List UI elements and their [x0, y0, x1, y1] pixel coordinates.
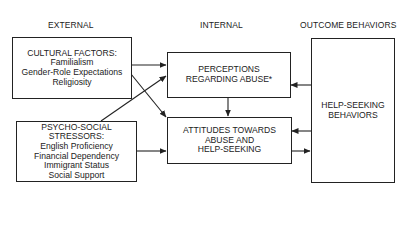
attitudes-line3: HELP-SEEKING	[198, 145, 262, 155]
helpseeking-line2: BEHAVIORS	[328, 111, 378, 121]
psychosocial-stressors-box: PSYCHO-SOCIAL STRESSORS: English Profici…	[16, 121, 137, 182]
cultural-factor-item: Religiosity	[52, 78, 91, 88]
cultural-factors-box: CULTURAL FACTORS: Familialism Gender-Rol…	[12, 37, 132, 99]
help-seeking-behaviors-box: HELP-SEEKING BEHAVIORS	[311, 38, 395, 183]
perceptions-line2: REGARDING ABUSE*	[186, 75, 272, 85]
arrow-cultural-to-attitudes	[131, 74, 166, 117]
attitudes-box: ATTITUDES TOWARDS ABUSE AND HELP-SEEKING	[167, 117, 292, 164]
psychosocial-item: Social Support	[49, 171, 105, 181]
perceptions-box: PERCEPTIONS REGARDING ABUSE*	[167, 52, 291, 98]
